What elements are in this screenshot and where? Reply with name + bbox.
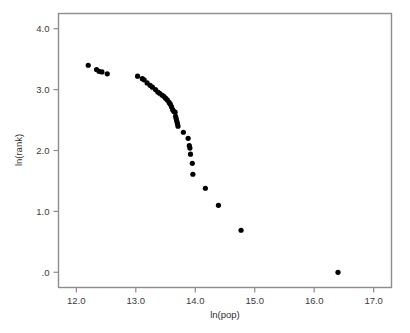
x-tick-label: 14.0 [186, 295, 205, 306]
data-point [175, 124, 180, 129]
data-point [181, 130, 186, 135]
y-axis-title: ln(rank) [13, 134, 24, 166]
data-point [335, 270, 340, 275]
data-point [99, 69, 104, 74]
scatter-plot-figure: 12.013.014.015.016.017.0 .01.02.03.04.0 … [0, 0, 410, 333]
data-point [187, 145, 192, 150]
x-tick-label: 13.0 [127, 295, 146, 306]
figure-background [0, 0, 410, 333]
x-tick-label: 15.0 [245, 295, 264, 306]
data-point [190, 172, 195, 177]
y-tick-label: 4.0 [36, 23, 49, 34]
data-point [135, 74, 140, 79]
x-tick-label: 12.0 [67, 295, 86, 306]
data-point [105, 71, 110, 76]
data-point [216, 203, 221, 208]
y-tick-label: 3.0 [36, 84, 49, 95]
y-tick-label: 1.0 [36, 206, 49, 217]
data-point [238, 228, 243, 233]
data-point [86, 63, 91, 68]
x-tick-label: 16.0 [305, 295, 324, 306]
y-tick-label: 2.0 [36, 145, 49, 156]
plot-canvas: 12.013.014.015.016.017.0 .01.02.03.04.0 … [0, 0, 410, 333]
data-point [203, 186, 208, 191]
data-point [186, 136, 191, 141]
data-point [190, 161, 195, 166]
x-axis-title: ln(pop) [210, 309, 240, 320]
y-tick-label: .0 [42, 267, 50, 278]
data-point [188, 152, 193, 157]
x-tick-label: 17.0 [364, 295, 383, 306]
